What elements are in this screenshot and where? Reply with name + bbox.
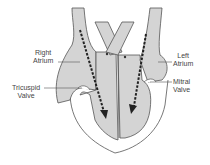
- right-atrium-chamber: [56, 8, 96, 103]
- label-line: Left: [173, 52, 193, 60]
- label-line: Tricuspid: [12, 84, 40, 92]
- label-tricuspid-valve: Tricuspid Valve: [12, 84, 40, 100]
- aortic-valve: [124, 56, 126, 58]
- label-line: Atrium: [33, 57, 53, 65]
- label-line: Mitral: [173, 78, 190, 86]
- label-line: Valve: [173, 86, 190, 94]
- left-atrium-chamber: [140, 8, 167, 82]
- label-line: Atrium: [173, 60, 193, 68]
- label-mitral-valve: Mitral Valve: [173, 78, 190, 94]
- pulmonary-valve: [106, 53, 108, 55]
- label-line: Valve: [12, 92, 40, 100]
- label-right-atrium: Right Atrium: [33, 49, 53, 65]
- label-left-atrium: Left Atrium: [173, 52, 193, 68]
- label-line: Right: [33, 49, 53, 57]
